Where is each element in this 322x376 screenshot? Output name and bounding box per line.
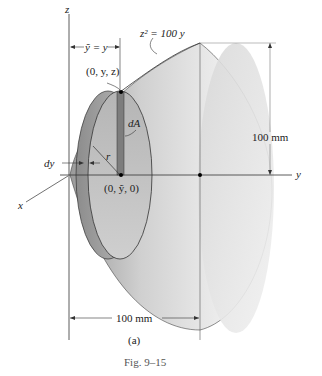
point-top-label: (0, y, z) (86, 66, 120, 77)
x-axis (26, 176, 68, 202)
subfigure-label: (a) (128, 335, 140, 346)
point-center (119, 173, 123, 177)
y-axis-label: y (296, 169, 301, 180)
area-element-label: dA (128, 118, 140, 129)
paraboloid-end-cap (198, 43, 274, 333)
x-axis-label: x (18, 200, 23, 211)
thickness-label: dy (44, 158, 54, 169)
radius-label: r (106, 151, 110, 162)
paraboloid-diagram (0, 0, 322, 376)
z-axis-label: z (65, 4, 69, 15)
curve-equation: z² = 100 y (140, 28, 185, 39)
area-strip-dA (117, 92, 124, 175)
figure-caption: Fig. 9–15 (124, 357, 166, 368)
height-dimension-label: 100 mm (252, 132, 288, 143)
ybar-equation: ỹ = y (85, 42, 108, 53)
point-center-label: (0, ỹ, 0) (104, 183, 139, 194)
length-dimension-label: 100 mm (116, 313, 152, 324)
point-end (198, 173, 202, 177)
